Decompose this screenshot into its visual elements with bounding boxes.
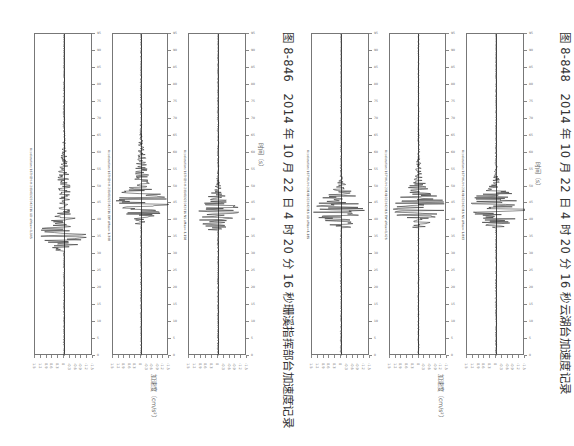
accel-tick-label: -1.2 bbox=[160, 363, 164, 370]
time-tick bbox=[524, 202, 527, 203]
accel-tick-label: -1.2 bbox=[238, 363, 242, 370]
time-tick bbox=[446, 253, 449, 254]
accel-tick bbox=[472, 355, 473, 358]
time-tick-label: 60 bbox=[451, 150, 455, 154]
accel-tick bbox=[389, 355, 390, 358]
time-tick bbox=[168, 287, 171, 288]
time-tick bbox=[446, 50, 449, 51]
time-tick-label: 85 bbox=[97, 65, 101, 69]
time-tick bbox=[446, 33, 449, 34]
trace-title: Acceleration: 16THZH-H-20141022042016 UD… bbox=[29, 148, 33, 239]
time-tick bbox=[92, 219, 95, 220]
time-tick-label: 60 bbox=[374, 150, 378, 154]
accel-tick-label: 0.6 bbox=[326, 363, 330, 369]
time-tick bbox=[168, 101, 171, 102]
accel-axis-label: 加速度（cm/s²） bbox=[437, 374, 446, 421]
time-tick-label: 85 bbox=[529, 65, 533, 69]
accel-tick bbox=[317, 355, 318, 358]
time-tick bbox=[168, 50, 171, 51]
time-tick-label: 40 bbox=[451, 217, 455, 221]
time-tick bbox=[92, 135, 95, 136]
accel-tick bbox=[507, 355, 508, 358]
waveform bbox=[390, 34, 447, 356]
accel-tick-label: -0.6 bbox=[149, 363, 153, 370]
accel-tick-label: 0.3 bbox=[209, 363, 213, 369]
accel-tick bbox=[418, 355, 419, 358]
time-tick bbox=[369, 202, 372, 203]
time-tick-label: 35 bbox=[251, 234, 255, 238]
accel-tick-label: -0.9 bbox=[355, 363, 359, 370]
time-tick-label: 20 bbox=[529, 285, 533, 289]
time-axis-label: 时间（s） bbox=[257, 143, 266, 170]
time-tick-label: 45 bbox=[173, 200, 177, 204]
time-tick-label: 10 bbox=[173, 319, 177, 323]
time-tick bbox=[246, 118, 249, 119]
accel-tick bbox=[223, 355, 224, 358]
time-tick bbox=[524, 101, 527, 102]
figure-caption: 图 8-848 2014 年 10 月 22 日 4 时 20 分 16 秒云湖… bbox=[558, 32, 574, 394]
time-tick-label: 5 bbox=[97, 336, 99, 340]
accel-tick bbox=[229, 355, 230, 358]
trace-title: Acceleration: 16TYHU-H-20141022042016 NS… bbox=[461, 150, 465, 240]
accel-tick bbox=[217, 355, 218, 358]
time-tick-label: 40 bbox=[374, 217, 378, 221]
accel-tick-label: 0.9 bbox=[198, 363, 202, 369]
accel-tick-label: 1.5 bbox=[387, 363, 391, 369]
accel-tick-label: -0.6 bbox=[350, 363, 354, 370]
time-tick-label: 20 bbox=[451, 285, 455, 289]
time-tick bbox=[446, 84, 449, 85]
time-tick bbox=[168, 152, 171, 153]
accel-tick-label: 0.3 bbox=[487, 363, 491, 369]
accel-tick-label: -1.5 bbox=[522, 363, 526, 370]
time-tick-label: 90 bbox=[97, 48, 101, 52]
accel-tick-label: 0 bbox=[493, 363, 497, 365]
time-tick bbox=[446, 287, 449, 288]
time-tick bbox=[446, 169, 449, 170]
time-tick bbox=[524, 169, 527, 170]
time-tick bbox=[524, 287, 527, 288]
accel-tick-label: -1.2 bbox=[361, 363, 365, 370]
accel-tick bbox=[151, 355, 152, 358]
time-tick bbox=[446, 236, 449, 237]
time-tick bbox=[92, 321, 95, 322]
time-tick-label: 0 bbox=[97, 353, 99, 357]
time-tick bbox=[524, 67, 527, 68]
accel-tick bbox=[518, 355, 519, 358]
accel-tick bbox=[363, 355, 364, 358]
accel-tick bbox=[140, 355, 141, 358]
time-tick bbox=[524, 321, 527, 322]
time-tick-label: 0 bbox=[374, 353, 376, 357]
time-tick-label: 35 bbox=[374, 234, 378, 238]
time-tick-label: 10 bbox=[374, 319, 378, 323]
accel-tick bbox=[369, 355, 370, 358]
time-tick-label: 30 bbox=[529, 251, 533, 255]
accel-tick bbox=[435, 355, 436, 358]
time-tick bbox=[524, 152, 527, 153]
accel-tick bbox=[412, 355, 413, 358]
time-tick bbox=[246, 253, 249, 254]
accel-tick-label: -0.3 bbox=[421, 363, 425, 370]
time-tick bbox=[246, 304, 249, 305]
time-tick-label: 75 bbox=[529, 99, 533, 103]
time-tick-label: 15 bbox=[173, 302, 177, 306]
time-tick-label: 80 bbox=[97, 82, 101, 86]
time-tick-label: 30 bbox=[374, 251, 378, 255]
accel-tick bbox=[334, 355, 335, 358]
time-tick-label: 90 bbox=[251, 48, 255, 52]
time-tick bbox=[168, 219, 171, 220]
accel-tick bbox=[478, 355, 479, 358]
time-tick bbox=[524, 304, 527, 305]
time-tick-label: 90 bbox=[451, 48, 455, 52]
time-tick-label: 70 bbox=[451, 116, 455, 120]
time-tick-label: 25 bbox=[374, 268, 378, 272]
accel-plot-1-ns bbox=[188, 33, 246, 355]
time-tick-label: 65 bbox=[97, 133, 101, 137]
accel-tick-label: -1.2 bbox=[438, 363, 442, 370]
time-tick-label: 70 bbox=[251, 116, 255, 120]
time-tick-label: 45 bbox=[251, 200, 255, 204]
accel-tick-label: 1.2 bbox=[116, 363, 120, 369]
time-tick-label: 10 bbox=[251, 319, 255, 323]
accel-tick-label: 0.9 bbox=[44, 363, 48, 369]
time-tick bbox=[246, 84, 249, 85]
time-tick bbox=[446, 101, 449, 102]
